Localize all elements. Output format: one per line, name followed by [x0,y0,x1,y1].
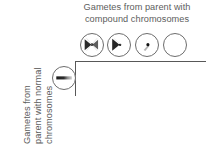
row-header-line2: parent with normal [33,68,43,144]
single-wedge-icon [108,34,130,56]
row-header: Gametes from parent with normal chromoso… [0,18,56,150]
gamete-circle-compound-both [80,33,104,57]
gamete-circle-compound-empty [163,33,187,57]
double-wedge-with-dot-icon [81,34,103,56]
gamete-circle-compound-single [107,33,131,57]
column-header-line1: Gametes from parent with [84,2,191,12]
horizontal-bar-chromosome-icon [53,67,75,89]
grid-horizontal-rule [75,61,206,62]
column-header: Gametes from parent with compound chromo… [70,2,204,25]
row-header-line1: Gametes from [22,85,32,144]
gamete-circle-normal [52,66,76,90]
gamete-circle-compound-minor [135,33,159,57]
row-header-line3: chromosomes [44,86,54,144]
column-header-line2: compound chromosomes [70,14,204,26]
small-dot-with-streak-icon [136,34,158,56]
genetics-punnett-figure: Gametes from parent with compound chromo… [0,0,206,160]
empty-gamete-icon [164,34,186,56]
